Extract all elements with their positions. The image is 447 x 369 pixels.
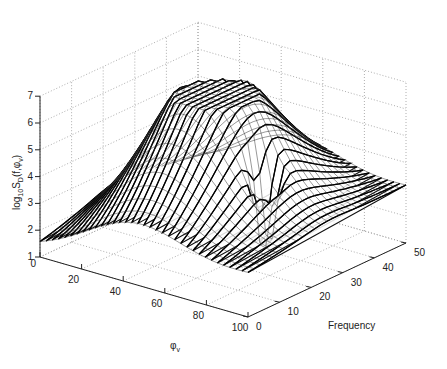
tick-label: 3 xyxy=(27,197,33,208)
tick-label: 5 xyxy=(27,144,33,155)
tick-label: 1 xyxy=(27,251,33,262)
tick-label: 100 xyxy=(232,322,249,333)
tick-label: 7 xyxy=(27,90,33,101)
tick-label: 40 xyxy=(382,262,394,273)
tick-label: 10 xyxy=(288,306,300,317)
surface-plot: 204060801000010203040501234567 φv Freque… xyxy=(0,0,447,369)
tick-label: 20 xyxy=(68,274,80,285)
tick-label: 0 xyxy=(256,321,262,332)
tick-label: 4 xyxy=(27,171,33,182)
tick-label: 50 xyxy=(414,247,426,258)
tick-label: 6 xyxy=(27,117,33,128)
x-axis-label: φv xyxy=(170,340,180,353)
tick-label: 2 xyxy=(27,224,33,235)
tick-label: 30 xyxy=(351,277,363,288)
y-axis-label: Frequency xyxy=(328,320,375,331)
tick-label: 20 xyxy=(319,291,331,302)
tick-label: 40 xyxy=(110,286,122,297)
surface-mesh xyxy=(40,79,406,273)
tick-label: 60 xyxy=(151,298,163,309)
tick-label: 80 xyxy=(193,310,205,321)
z-axis-label: log10SD(f,φv) xyxy=(11,155,24,210)
